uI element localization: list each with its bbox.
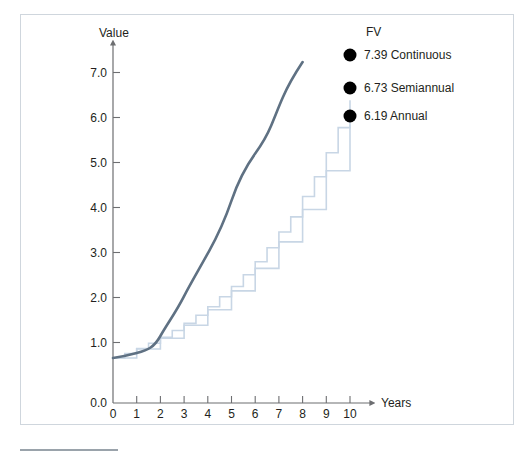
series-semiannual-step [113, 100, 350, 358]
x-tick-labels: 0 1 2 3 4 5 6 7 8 9 10 [110, 407, 357, 421]
x-tick-label-0: 0 [110, 407, 117, 421]
series-annual-step [113, 125, 350, 359]
y-axis-title: Value [99, 26, 129, 40]
x-tick-label-9: 9 [323, 407, 330, 421]
x-axis-ticks [137, 396, 350, 403]
y-tick-label-6: 6.0 [90, 111, 107, 125]
x-axis-title: Years [381, 396, 411, 410]
y-tick-labels: 7.0 6.0 5.0 4.0 3.0 2.0 1.0 0.0 [90, 66, 107, 410]
x-tick-label-3: 3 [181, 407, 188, 421]
y-tick-label-4: 4.0 [90, 201, 107, 215]
x-tick-label-8: 8 [299, 407, 306, 421]
y-axis-ticks [113, 73, 120, 343]
fv-label-semiannual: 6.73 Semiannual [364, 81, 454, 95]
fv-label-continuous: 7.39 Continuous [364, 48, 451, 62]
y-tick-label-3: 3.0 [90, 246, 107, 260]
x-tick-label-7: 7 [276, 407, 283, 421]
y-tick-label-7: 7.0 [90, 66, 107, 80]
x-tick-label-4: 4 [204, 407, 211, 421]
marker-annual [344, 110, 357, 123]
marker-continuous [344, 49, 357, 62]
footer-rule [20, 449, 118, 451]
fv-legend: FV 7.39 Continuous 6.73 Semiannual 6.19 … [344, 25, 455, 123]
y-tick-label-0: 0.0 [90, 396, 107, 410]
chart-canvas: 7.0 6.0 5.0 4.0 3.0 2.0 1.0 0.0 0 1 2 3 … [0, 0, 530, 458]
figure-root: 7.0 6.0 5.0 4.0 3.0 2.0 1.0 0.0 0 1 2 3 … [0, 0, 530, 458]
x-tick-label-5: 5 [228, 407, 235, 421]
x-tick-label-6: 6 [252, 407, 259, 421]
fv-header-label: FV [366, 25, 381, 39]
marker-semiannual [344, 82, 357, 95]
y-tick-label-2: 2.0 [90, 291, 107, 305]
x-tick-label-2: 2 [157, 407, 164, 421]
y-tick-label-5: 5.0 [90, 156, 107, 170]
fv-label-annual: 6.19 Annual [364, 109, 427, 123]
x-tick-label-10: 10 [343, 407, 357, 421]
y-tick-label-1: 1.0 [90, 336, 107, 350]
x-tick-label-1: 1 [133, 407, 140, 421]
